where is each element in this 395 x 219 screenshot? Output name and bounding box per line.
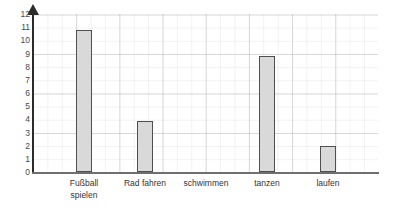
- bar: [76, 30, 92, 172]
- bar-chart: 0123456789101112 Fußball spielenRad fahr…: [0, 0, 395, 219]
- bar: [259, 56, 275, 172]
- bar: [137, 121, 153, 172]
- bar: [320, 146, 336, 172]
- x-category-label: laufen: [288, 178, 368, 190]
